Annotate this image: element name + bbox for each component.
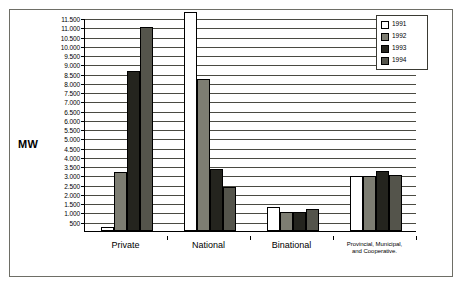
bar-1991-national [184, 12, 197, 231]
x-axis-category-provincial: Provincial, Municipal,and Cooperative. [318, 241, 431, 255]
plot-inner [85, 19, 416, 231]
bar-1993-binational [293, 212, 306, 231]
bar-1994-binational [306, 209, 319, 231]
legend-label: 1992 [392, 33, 406, 40]
y-axis-tick-label: 5.500 [64, 127, 80, 134]
y-axis-tick-label: 7.000 [64, 99, 80, 106]
y-axis-tick-label: 9.000 [64, 62, 80, 69]
y-axis-tick-label: 5.000 [64, 136, 80, 143]
bar-1993-private [127, 71, 140, 231]
bar-1994-provincial [389, 175, 402, 231]
legend-item-1993[interactable]: 1993 [381, 43, 424, 54]
legend-swatch-icon [381, 33, 389, 41]
bar-1994-private [140, 27, 153, 231]
y-axis-tick-label: 11.500 [61, 16, 80, 23]
bar-1993-provincial [376, 171, 389, 231]
y-axis-tick-label: 4.000 [64, 154, 80, 161]
bar-group [168, 19, 251, 231]
y-axis-title: MW [18, 138, 38, 150]
y-axis-tick-label: 10.500 [61, 34, 80, 41]
y-axis-tick-label: 6.000 [64, 117, 80, 124]
bar-1992-provincial [363, 176, 376, 231]
y-axis-tick-labels: 11.50011.00010.50010.0009.5009.0008.5008… [40, 19, 80, 232]
legend-label: 1993 [392, 45, 406, 52]
bar-1994-national [223, 187, 236, 231]
y-axis-tick-label: 8.500 [64, 71, 80, 78]
x-axis-label-line: Provincial, Municipal, [318, 241, 431, 248]
y-axis-tick-label: 1.000 [64, 210, 80, 217]
y-axis-tick-label: 9.500 [64, 53, 80, 60]
legend-swatch-icon [381, 21, 389, 29]
plot-area [84, 19, 416, 232]
x-axis-label-line: and Cooperative. [318, 248, 431, 255]
legend-label: 1994 [392, 57, 406, 64]
legend-swatch-icon [381, 57, 389, 65]
bar-group [85, 19, 168, 231]
bar-1991-binational [267, 207, 280, 231]
legend-swatch-icon [381, 45, 389, 53]
bar-group [251, 19, 334, 231]
legend-item-1991[interactable]: 1991 [381, 19, 424, 30]
bar-1992-national [197, 79, 210, 231]
y-axis-tick-label: 10.000 [61, 43, 80, 50]
x-axis-separator-tick [333, 236, 334, 240]
bar-1993-national [210, 169, 223, 231]
bar-chart: MW 11.50011.00010.50010.0009.5009.0008.5… [0, 0, 464, 292]
y-axis-tick-label: 1.500 [64, 201, 80, 208]
y-axis-tick-label: 4.500 [64, 145, 80, 152]
bar-1992-private [114, 172, 127, 231]
y-axis-tick-label: 3.500 [64, 164, 80, 171]
legend-item-1994[interactable]: 1994 [381, 55, 424, 66]
legend-label: 1991 [392, 21, 406, 28]
y-axis-tick-label: 2.500 [64, 182, 80, 189]
y-axis-tick-label: 2.000 [64, 191, 80, 198]
y-axis-tick-label: 6.500 [64, 108, 80, 115]
x-axis-category-labels: PrivateNationalBinationalProvincial, Mun… [84, 236, 416, 272]
y-axis-tick-label: 3.000 [64, 173, 80, 180]
y-axis-tick-label: 11.000 [61, 25, 80, 32]
y-axis-tick-label: 500 [69, 219, 80, 226]
x-axis-separator-tick [416, 236, 417, 240]
y-axis-tick-label: 7.500 [64, 90, 80, 97]
y-axis-tick-label: 8.000 [64, 80, 80, 87]
bar-1992-binational [280, 212, 293, 231]
bar-1991-private [101, 227, 114, 231]
chart-legend: 1991199219931994 [376, 15, 428, 70]
bar-1991-provincial [350, 176, 363, 231]
legend-item-1992[interactable]: 1992 [381, 31, 424, 42]
